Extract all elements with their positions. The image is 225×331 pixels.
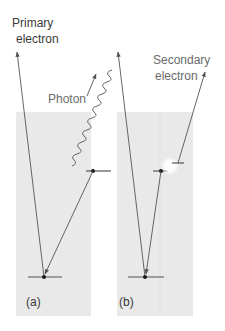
primary-electron-label-line1: Primary [12, 16, 53, 30]
primary-electron-label-line2: electron [16, 32, 59, 46]
electron-emission-diagram: Primary electron Photon (a) Secondary el… [0, 0, 225, 331]
energy-transfer-glow [161, 157, 179, 175]
lower-level-dot-b [143, 275, 147, 279]
lower-level-dot-a [42, 275, 46, 279]
photon-arrow [87, 74, 96, 96]
panel-a: Primary electron Photon (a) [12, 16, 112, 316]
secondary-electron-label-line1: Secondary [153, 53, 210, 67]
photon-label: Photon [48, 92, 86, 106]
secondary-electron-label-line2: electron [155, 69, 198, 83]
panel-b-label: (b) [119, 295, 134, 309]
panel-b: Secondary electron (b) [117, 52, 210, 316]
panel-a-label: (a) [26, 295, 41, 309]
